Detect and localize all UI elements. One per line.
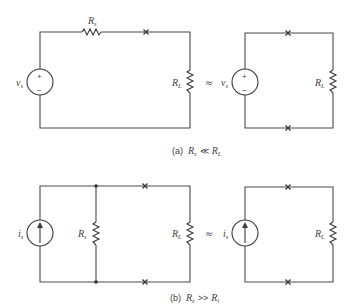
panel-b-right-circuit: RL is: [223, 185, 336, 285]
panel-a-right-circuit: RL + − vs: [221, 31, 336, 131]
approx-symbol-a: ≈: [205, 77, 213, 88]
junction-dot: [94, 280, 98, 284]
wire-bottom: [245, 245, 333, 282]
rl-label: RL: [314, 77, 325, 89]
wire-top: [40, 186, 190, 222]
minus-sign: −: [242, 86, 247, 95]
load-resistor-rl: [330, 70, 336, 93]
approx-symbol-b: ≈: [205, 228, 213, 239]
is-label: is: [223, 228, 229, 240]
load-resistor-rl: [187, 70, 193, 93]
wire-bottom: [40, 245, 190, 282]
vs-label: vs: [221, 77, 228, 89]
series-resistor-rs: [82, 29, 101, 35]
plus-sign: +: [37, 72, 42, 81]
load-resistor-rl: [187, 222, 193, 245]
minus-sign: −: [37, 86, 42, 95]
caption-a: (a)Rs≪RL: [172, 145, 222, 157]
junction-dot: [94, 184, 98, 188]
wire-top-right: [101, 32, 190, 70]
wire-bottom: [245, 93, 333, 128]
panel-a-left-circuit: Rs RL + − vs: [16, 15, 193, 128]
is-label: is: [18, 228, 24, 240]
wire-bottom: [40, 93, 190, 128]
rs-label: Rs: [77, 228, 87, 240]
vs-label: vs: [16, 77, 23, 89]
shunt-resistor-rs: [93, 222, 99, 245]
rl-label: RL: [171, 228, 182, 240]
plus-sign: +: [242, 72, 247, 81]
panel-b-left-circuit: Rs RL is: [18, 184, 193, 285]
wire-top: [245, 33, 333, 70]
circuit-figure: Rs RL + − vs ≈ RL + − vs (: [0, 0, 350, 307]
rl-label: RL: [171, 77, 182, 89]
wire-top: [245, 187, 333, 222]
rs-label: Rs: [87, 15, 97, 27]
wire-top-left: [40, 32, 82, 69]
caption-b: (b)Rs>>Rl: [170, 292, 219, 304]
rl-label: RL: [314, 228, 325, 240]
load-resistor-rl: [330, 222, 336, 245]
